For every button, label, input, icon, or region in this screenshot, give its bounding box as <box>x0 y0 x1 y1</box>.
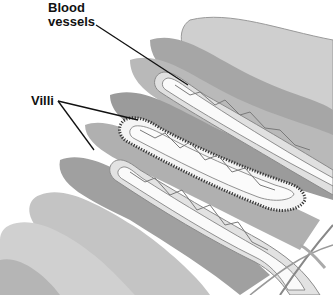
label-line: vessels <box>48 15 95 29</box>
label-villi: Villi <box>31 94 54 108</box>
label-line: Blood <box>48 1 95 15</box>
villi-illustration <box>0 0 333 295</box>
label-blood-vessels: Blood vessels <box>48 1 95 29</box>
label-line: Villi <box>31 94 54 108</box>
